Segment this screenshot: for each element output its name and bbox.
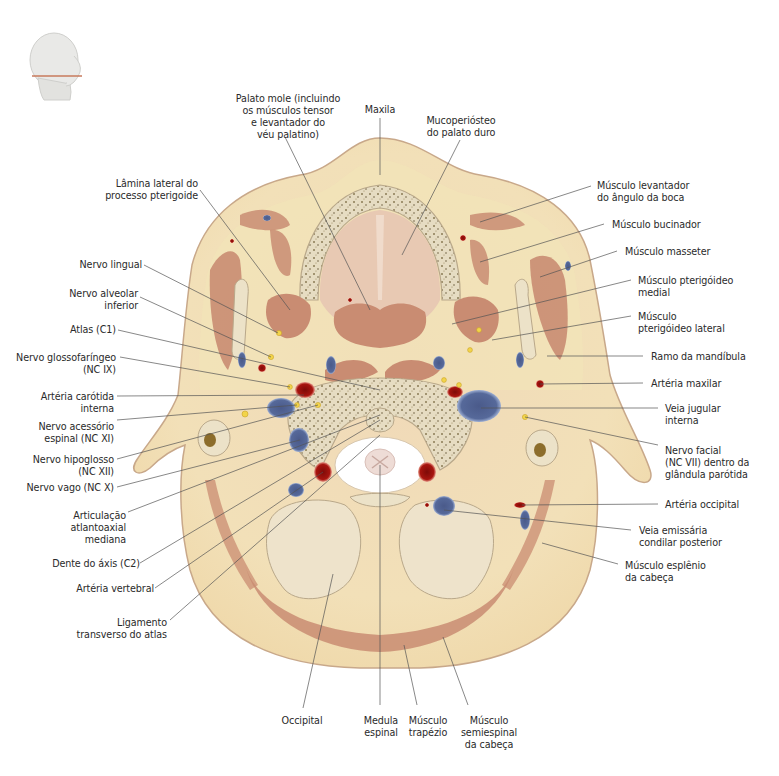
- label-trapezio: Músculo trapézio: [403, 715, 453, 739]
- label-arteria-carotida: Artéria carótida interna: [0, 391, 114, 415]
- label-articulacao: Articulação atlantoaxial mediana: [40, 510, 126, 546]
- label-palato-mole: Palato mole (incluindo os músculos tenso…: [228, 93, 348, 141]
- label-veia-jugular: Veia jugular interna: [665, 403, 721, 427]
- label-bucinador: Músculo bucinador: [612, 219, 701, 231]
- label-mucoperiosteo: Mucoperiósteo do palato duro: [416, 115, 506, 139]
- label-nervo-facial: Nervo facial (NC VII) dentro da glândula…: [665, 445, 749, 481]
- label-nervo-glossofaringeo: Nervo glossofaríngeo (NC IX): [0, 352, 116, 376]
- label-nervo-lingual: Nervo lingual: [40, 259, 142, 271]
- label-nervo-acessorio: Nervo acessório espinal (NC XI): [0, 421, 114, 445]
- label-pterigoideo-medial: Músculo pterigóideo medial: [638, 275, 733, 299]
- label-ligamento: Ligamento transverso do atlas: [50, 617, 167, 641]
- label-semiespinal: Músculo semiespinal da cabeça: [456, 715, 522, 751]
- label-esplenio: Músculo esplênio da cabeça: [625, 560, 706, 584]
- label-dente-axis: Dente do áxis (C2): [30, 558, 140, 570]
- label-pterigoideo-lateral: Músculo pterigóideo lateral: [638, 311, 725, 335]
- label-arteria-maxilar: Artéria maxilar: [651, 378, 721, 390]
- label-arteria-occipital: Artéria occipital: [665, 499, 739, 511]
- anatomy-figure: Palato mole (incluindo os músculos tenso…: [0, 0, 779, 776]
- posterior-condylar-emissary-vein: [433, 496, 455, 516]
- label-masseter: Músculo masseter: [625, 246, 710, 258]
- label-ramo-mandibula: Ramo da mandíbula: [651, 351, 746, 363]
- label-maxila: Maxila: [355, 104, 405, 116]
- orientation-head-thumbnail: [30, 33, 82, 100]
- label-medula: Medula espinal: [356, 715, 406, 739]
- label-lamina-lateral: Lâmina lateral do processo pterigoide: [60, 178, 198, 202]
- internal-carotid-artery-left: [295, 382, 315, 398]
- label-veia-emissaria: Veia emissária condilar posterior: [639, 525, 722, 549]
- label-nervo-hipoglosso: Nervo hipoglosso (NC XII): [0, 454, 114, 478]
- label-arteria-vertebral: Artéria vertebral: [40, 583, 154, 595]
- label-nervo-vago: Nervo vago (NC X): [0, 482, 114, 494]
- label-occipital: Occipital: [272, 715, 332, 727]
- label-atlas: Atlas (C1): [30, 324, 116, 336]
- vertebral-artery-right: [418, 462, 436, 482]
- occipital-bone-left: [266, 500, 360, 599]
- label-nervo-alveolar: Nervo alveolar inferior: [30, 288, 138, 312]
- label-levantador-angulo: Músculo levantador do ângulo da boca: [597, 180, 689, 204]
- internal-jugular-vein-right: [457, 390, 501, 422]
